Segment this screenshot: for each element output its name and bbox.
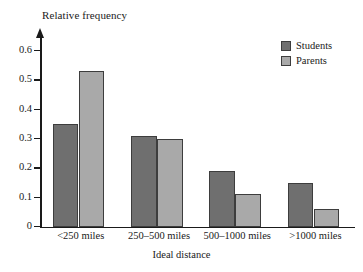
y-axis-tick xyxy=(34,167,41,168)
legend-item-students: Students xyxy=(281,39,332,52)
y-axis-tick-label: 0.5 xyxy=(19,74,32,85)
legend-label-students: Students xyxy=(296,40,332,51)
bar-students-3 xyxy=(209,171,235,227)
bar-students-4 xyxy=(288,183,314,227)
x-axis-category-label: 250–500 miles xyxy=(114,230,204,241)
bar-chart: Relative frequency 00.10.20.30.40.50.6 <… xyxy=(0,0,363,272)
bar-parents-1 xyxy=(79,71,105,226)
y-axis-tick-label: 0.2 xyxy=(19,162,32,173)
chart-legend: Students Parents xyxy=(281,39,332,69)
x-axis-line xyxy=(40,227,355,229)
y-axis-tick-label: 0.6 xyxy=(19,45,32,56)
y-axis-tick-label: 0 xyxy=(27,221,32,232)
legend-item-parents: Parents xyxy=(281,54,332,67)
x-axis-category-label: >1000 miles xyxy=(270,230,360,241)
bar-students-2 xyxy=(131,136,157,227)
x-axis-title: Ideal distance xyxy=(0,249,363,260)
y-axis-tick xyxy=(34,109,41,110)
bar-parents-4 xyxy=(314,209,340,227)
y-axis-tick xyxy=(34,197,41,198)
legend-swatch-students-icon xyxy=(281,41,291,51)
y-axis-title: Relative frequency xyxy=(42,9,127,21)
x-axis-category-label: <250 miles xyxy=(36,230,126,241)
bar-parents-3 xyxy=(235,194,261,226)
y-axis-tick xyxy=(34,79,41,80)
y-axis-tick xyxy=(34,50,41,51)
y-axis-tick-label: 0.4 xyxy=(19,104,32,115)
y-axis-tick-label: 0.1 xyxy=(19,192,32,203)
x-axis-category-label: 500–1000 miles xyxy=(192,230,282,241)
legend-swatch-parents-icon xyxy=(281,56,291,66)
y-axis-tick xyxy=(34,138,41,139)
bar-parents-2 xyxy=(157,139,183,227)
legend-label-parents: Parents xyxy=(296,55,327,66)
y-axis-tick-label: 0.3 xyxy=(19,133,32,144)
y-axis-tick xyxy=(34,226,41,227)
bar-students-1 xyxy=(53,124,79,227)
